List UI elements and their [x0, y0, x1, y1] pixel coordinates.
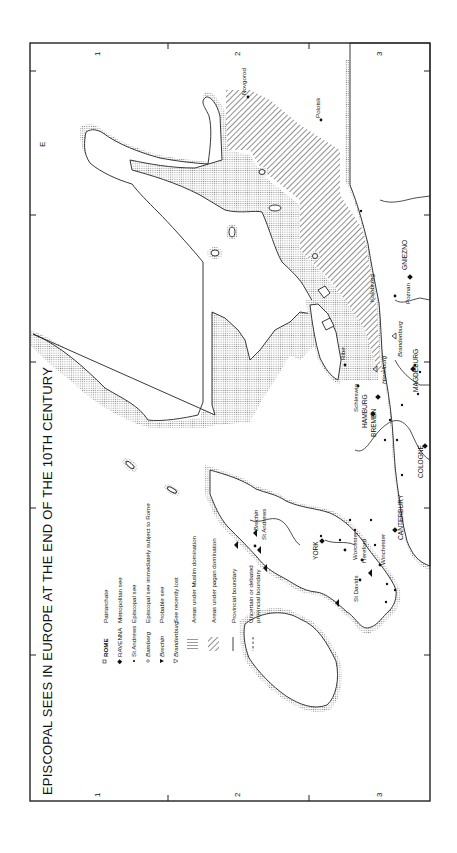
grid-bottom-1: 1 — [93, 792, 102, 797]
label-cologne: COLOGNE — [417, 444, 424, 478]
legend-sample-bamberg: Bamberg — [144, 631, 151, 657]
legend-sample-ravenna: RAVENNA — [116, 627, 123, 657]
pagan-hatch-swatch — [208, 637, 219, 651]
label-schleswig: Schleswig — [352, 384, 359, 412]
label-worcester: Worcester — [351, 532, 358, 560]
legend-sample-brandenburg: Brandenburg — [172, 621, 179, 657]
label-brechin: Brechin — [252, 509, 259, 531]
label-york: YORK — [312, 541, 319, 560]
episcopal-dot-icon — [133, 660, 135, 662]
legend-label-uncertain-2: provincial boundary — [254, 568, 261, 623]
episcopal-sees-map: Brechin St Andrews YORK Worcester Herefo… — [0, 0, 457, 853]
muslim-hatch-swatch — [187, 637, 198, 651]
legend-sample-rome: ROME — [102, 638, 109, 657]
label-hamburg: HAMBURG — [361, 394, 368, 428]
legend-sample-st-andrews: St Andrews — [130, 626, 137, 657]
label-winchester: Winchester — [379, 534, 386, 565]
label-kolobrzeg: Kolobrzeg — [368, 274, 375, 302]
label-ribe: Ribe — [339, 347, 346, 360]
metropolitan-diamond-icon — [117, 659, 122, 664]
map-title: EPISCOPAL SEES IN EUROPE AT THE END OF T… — [40, 367, 55, 795]
label-magdeburg: MAGDEBURG — [412, 349, 419, 392]
lost-triangle-icon — [174, 659, 178, 663]
legend-label-subject-to-rome: Episcopal see immediately subject to Rom… — [144, 503, 151, 623]
legend-label-pagan: Areas under pagan domination — [210, 538, 217, 623]
grid-top-3: 3 — [375, 51, 384, 56]
label-canterbury: CANTERBURY — [397, 494, 404, 540]
legend-label-recently-lost: See recently lost — [172, 577, 179, 623]
label-gniezno: GNIEZNO — [401, 240, 408, 270]
label-bremen: BREMEN — [370, 409, 377, 437]
probable-triangle-icon — [160, 659, 164, 663]
grid-top-1: 1 — [93, 51, 102, 56]
grid-bottom-2: 2 — [233, 792, 242, 797]
legend-label-patriarchate: Patriarchate — [102, 589, 109, 623]
label-st-andrews: St Andrews — [260, 509, 267, 540]
grid-top-2: 2 — [233, 51, 242, 56]
label-polotsk: Polotsk — [314, 97, 321, 118]
grid-side-e: E — [38, 142, 47, 147]
label-poznan: Poznan — [404, 282, 411, 304]
label-brandenburg: Brandenburg — [396, 321, 403, 357]
legend-sample-brechin: Brechin — [158, 635, 165, 657]
legend-label-episcopal: Episcopal see — [130, 584, 137, 623]
patriarchate-square-icon — [103, 660, 106, 663]
label-st-davids: St Davids — [352, 576, 359, 602]
legend-label-uncertain-1: Uncertain or debated — [247, 565, 254, 623]
label-hereford: Hereford — [360, 538, 367, 563]
legend-label-muslim: Areas under Muslim domination — [190, 535, 197, 623]
legend-label-provincial: Provincial boundary — [230, 568, 237, 623]
legend-label-probable: Probable see — [158, 586, 165, 623]
label-havelburg: Havelburg — [380, 355, 387, 384]
legend-label-metropolitan: Metropolitan see — [116, 577, 123, 623]
label-novgorod: Novgorod — [240, 68, 247, 95]
subject-to-rome-circle-icon — [147, 660, 150, 663]
grid-bottom-3: 3 — [375, 792, 384, 797]
